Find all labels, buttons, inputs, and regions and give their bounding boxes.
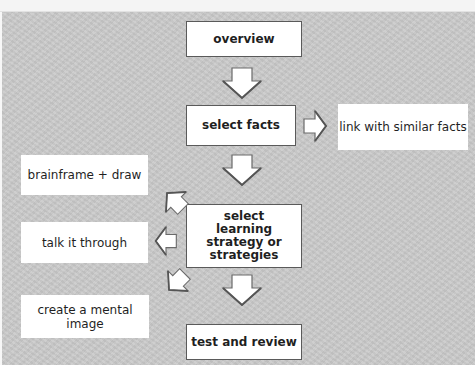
arrow-down-icon <box>222 153 262 187</box>
node-overview: overview <box>186 21 302 57</box>
node-talk-it-through: talk it through <box>21 222 148 263</box>
arrow-right-icon <box>303 110 327 142</box>
arrow-down-icon <box>222 273 262 307</box>
node-create-mental-image: create a mental image <box>21 295 149 338</box>
node-brainframe-draw: brainframe + draw <box>21 155 148 195</box>
arrow-down-icon <box>222 67 262 99</box>
node-test-and-review-label: test and review <box>191 336 297 349</box>
node-select-learning-strategy: select learning strategy or strategies <box>186 204 302 268</box>
node-link-with-similar-facts-label: link with similar facts <box>339 120 467 134</box>
node-link-with-similar-facts: link with similar facts <box>338 104 468 150</box>
node-brainframe-draw-label: brainframe + draw <box>28 168 142 182</box>
node-create-mental-image-label: create a mental image <box>21 303 149 331</box>
node-select-facts-label: select facts <box>202 119 280 132</box>
node-select-learning-strategy-label: select learning strategy or strategies <box>201 210 287 262</box>
arrow-left-icon <box>154 226 178 256</box>
node-test-and-review: test and review <box>186 324 302 360</box>
node-talk-it-through-label: talk it through <box>42 236 127 250</box>
node-overview-label: overview <box>213 33 274 46</box>
node-select-facts: select facts <box>186 105 296 146</box>
top-strip <box>0 0 475 12</box>
